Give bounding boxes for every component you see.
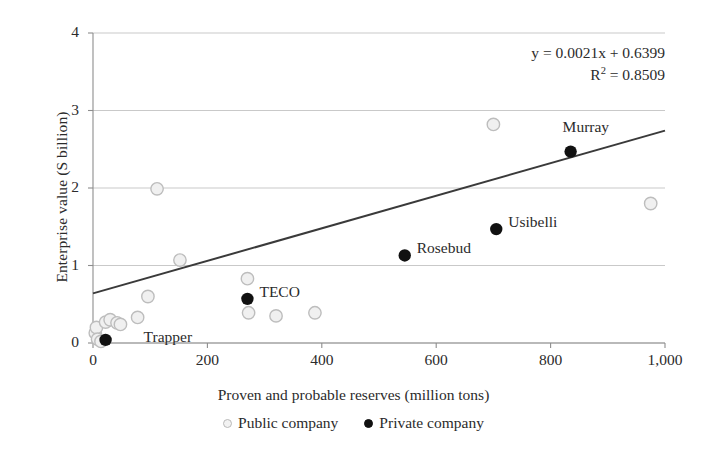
point-label-murray: Murray	[563, 118, 610, 136]
r-squared-line: R2 = 0.8509	[531, 64, 665, 86]
r-squared-value: = 0.8509	[606, 66, 665, 83]
point-label-teco: TECO	[259, 283, 299, 301]
scatter-chart: Enterprise value (S billion) Proven and …	[0, 0, 707, 455]
y-axis-title: Enterprise value (S billion)	[53, 47, 71, 347]
legend-item-public[interactable]: Public company	[223, 414, 338, 432]
data-point-public-14	[270, 310, 282, 322]
x-tick-label-600: 600	[401, 351, 471, 369]
data-point-public-17	[645, 197, 657, 209]
y-tick-label-0: 0	[49, 333, 79, 351]
y-tick-label-2: 2	[49, 178, 79, 196]
data-point-public-15	[309, 307, 321, 319]
public-marker-icon	[223, 419, 232, 428]
legend-item-private[interactable]: Private company	[364, 414, 484, 432]
data-point-public-12	[241, 272, 253, 284]
data-point-public-8	[131, 311, 143, 323]
data-point-private-2	[399, 249, 411, 261]
data-point-public-9	[142, 290, 154, 302]
data-point-public-11	[174, 254, 186, 266]
data-point-private-3	[490, 223, 502, 235]
x-axis-title: Proven and probable reserves (million to…	[0, 386, 707, 404]
point-label-usibelli: Usibelli	[508, 213, 557, 231]
data-point-public-13	[242, 307, 254, 319]
chart-legend: Public companyPrivate company	[0, 414, 707, 432]
x-tick-label-800: 800	[516, 351, 586, 369]
data-point-public-10	[151, 183, 163, 195]
x-tick-label-0: 0	[58, 351, 128, 369]
data-point-private-4	[564, 145, 576, 157]
data-point-private-0	[99, 334, 111, 346]
y-tick-label-3: 3	[49, 101, 79, 119]
x-tick-label-200: 200	[172, 351, 242, 369]
y-tick-label-1: 1	[49, 256, 79, 274]
legend-label: Private company	[379, 414, 484, 432]
y-tick-label-4: 4	[49, 23, 79, 41]
point-label-trapper: Trapper	[144, 328, 193, 346]
private-marker-icon	[364, 419, 373, 428]
x-tick-label-1000: 1,000	[630, 351, 700, 369]
regression-annotation: y = 0.0021x + 0.6399 R2 = 0.8509	[531, 42, 665, 86]
data-point-public-7	[114, 318, 126, 330]
trendline	[93, 131, 665, 294]
r-squared-symbol: R	[590, 66, 600, 83]
point-label-rosebud: Rosebud	[417, 239, 471, 257]
legend-label: Public company	[238, 414, 338, 432]
data-point-private-1	[241, 293, 253, 305]
regression-equation: y = 0.0021x + 0.6399	[531, 42, 665, 64]
x-tick-label-400: 400	[287, 351, 357, 369]
data-point-public-16	[487, 118, 499, 130]
